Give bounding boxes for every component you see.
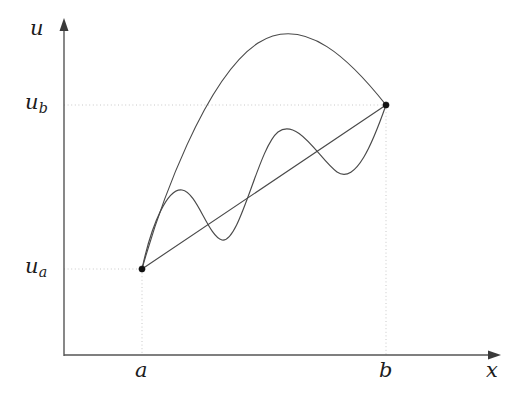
y-tick-ub-base: u (25, 90, 39, 114)
x-tick-label-b: b (379, 360, 392, 381)
x-tick-label-a: a (135, 360, 148, 381)
curves-group (142, 34, 386, 269)
left-endpoint-dot (139, 266, 145, 272)
right-endpoint-dot (383, 102, 389, 108)
u-axis-label: u (30, 18, 44, 39)
y-tick-ub-subscript: b (39, 101, 48, 115)
y-tick-ua-subscript: a (39, 265, 48, 279)
axes-group (60, 18, 502, 360)
y-tick-label-ua: ua (25, 256, 47, 280)
x-axis-label: x (486, 360, 498, 381)
straight-chord (142, 105, 386, 269)
u-axis-arrowhead (60, 18, 69, 31)
y-tick-label-ub: ub (25, 92, 48, 116)
figure-canvas (0, 0, 528, 400)
y-tick-ua-base: u (25, 254, 39, 278)
variational-curves-figure: u ub ua a b x (0, 0, 528, 400)
guide-lines-group (64, 105, 386, 355)
upper-arc-curve (142, 34, 386, 269)
